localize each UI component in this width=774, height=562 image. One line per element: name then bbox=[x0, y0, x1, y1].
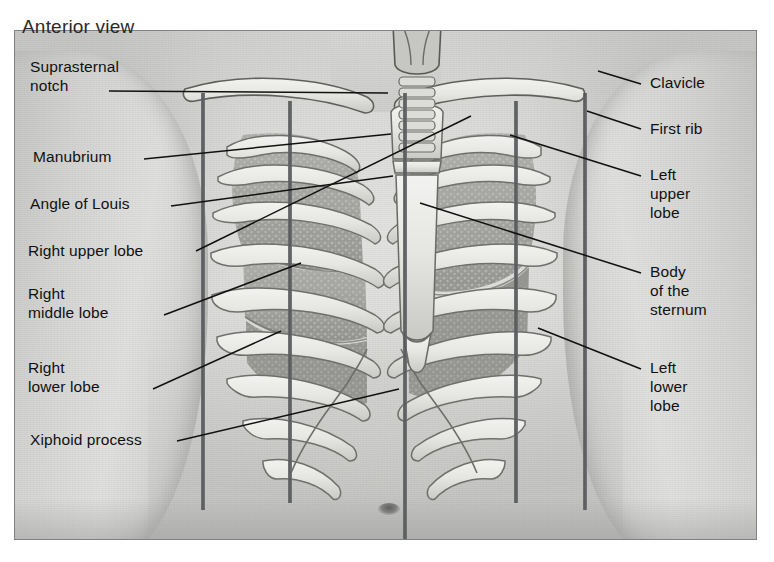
figure-frame bbox=[14, 30, 757, 540]
label-suprasternal-notch: Suprasternal notch bbox=[30, 57, 119, 95]
label-right-upper-lobe: Right upper lobe bbox=[28, 241, 143, 260]
label-right-lower-lobe: Right lower lobe bbox=[28, 358, 100, 396]
label-manubrium: Manubrium bbox=[33, 147, 111, 166]
label-first-rib: First rib bbox=[650, 119, 703, 138]
reference-line-left-midclavicular bbox=[514, 101, 518, 503]
label-left-lower-lobe: Left lower lobe bbox=[650, 358, 688, 415]
reference-line-midsternal bbox=[403, 93, 407, 540]
reference-line-right-anterior-axillary bbox=[201, 93, 205, 510]
airway bbox=[393, 31, 441, 152]
label-body-of-sternum: Body of the sternum bbox=[650, 262, 707, 319]
view-title: Anterior view bbox=[22, 16, 134, 38]
reference-line-right-midclavicular bbox=[288, 101, 292, 503]
label-left-upper-lobe: Left upper lobe bbox=[650, 165, 690, 222]
label-right-middle-lobe: Right middle lobe bbox=[28, 284, 108, 322]
clavicle-right bbox=[183, 78, 373, 113]
reference-line-left-anterior-axillary bbox=[583, 93, 587, 510]
clavicles bbox=[183, 78, 584, 113]
thyroid-cartilage bbox=[393, 31, 441, 74]
sternal-angle bbox=[393, 161, 441, 173]
label-clavicle: Clavicle bbox=[650, 73, 705, 92]
anatomy-overlay bbox=[15, 31, 756, 539]
label-xiphoid-process: Xiphoid process bbox=[30, 430, 142, 449]
label-angle-of-louis: Angle of Louis bbox=[30, 194, 130, 213]
